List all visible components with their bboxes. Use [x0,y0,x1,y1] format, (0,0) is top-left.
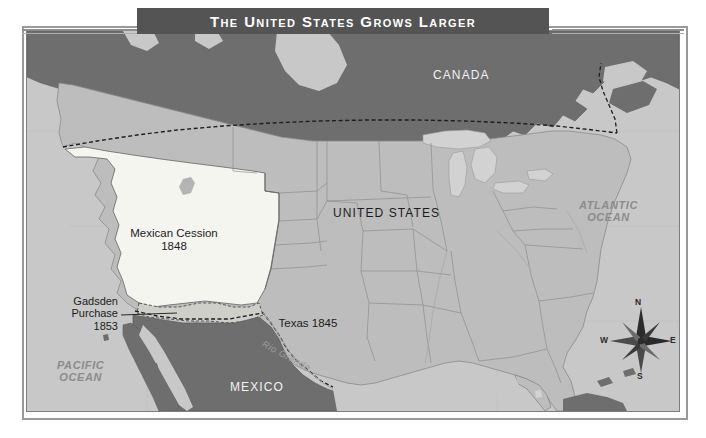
map-canvas: CANADA UNITED STATES MEXICO ATLANTIC OCE… [26,30,680,412]
map-graphic [27,31,679,411]
compass-west-label: W [600,335,608,345]
lake-superior [423,130,491,149]
title-rule-right [552,29,684,31]
baja-islet-2 [139,352,145,359]
compass-east-label: E [670,335,676,345]
compass-rose: N E S W [602,299,680,381]
title-rule-left-thin [22,33,140,34]
compass-south-label: S [637,371,643,381]
title-rule-right-thin [552,33,684,34]
map-title-text: The United States Grows Larger [210,14,476,29]
title-rule-left [22,29,140,31]
florida-lake [535,390,542,398]
pacific-islet [103,334,109,341]
lake-erie [493,181,529,193]
map-title-banner: The United States Grows Larger [137,8,549,34]
compass-north-label: N [635,297,641,307]
compass-star [610,307,672,373]
map-figure: CANADA UNITED STATES MEXICO ATLANTIC OCE… [0,0,706,438]
